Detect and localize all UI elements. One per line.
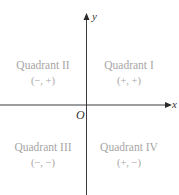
quadrant-iii-signs: (−, −) [3,155,83,170]
quadrant-i: Quadrant I (+, +) [89,58,169,88]
quadrant-iii-name: Quadrant III [3,140,83,155]
origin-label: O [76,110,85,121]
quadrant-i-name: Quadrant I [89,58,169,73]
quadrant-iv: Quadrant IV (+, −) [89,140,169,170]
x-axis-label: x [172,99,177,110]
quadrant-ii-name: Quadrant II [3,58,83,73]
coordinate-plane: y x O Quadrant II (−, +) Quadrant I (+, … [0,0,179,195]
quadrant-iii: Quadrant III (−, −) [3,140,83,170]
x-axis-arrow-icon [165,102,172,108]
quadrant-iv-signs: (+, −) [89,155,169,170]
y-axis-arrow-icon [84,13,90,20]
quadrant-ii-signs: (−, +) [3,73,83,88]
quadrant-i-signs: (+, +) [89,73,169,88]
quadrant-iv-name: Quadrant IV [89,140,169,155]
quadrant-ii: Quadrant II (−, +) [3,58,83,88]
y-axis-label: y [92,11,97,22]
